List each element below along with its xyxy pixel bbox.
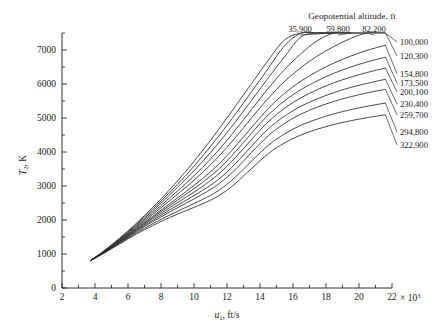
x-tick-label: 22	[387, 292, 397, 302]
y-axis-label: T2, K	[18, 155, 29, 175]
tick-labels-layer: 2468101214161820220100020003000400050006…	[37, 45, 397, 302]
y-tick-label: 3000	[37, 181, 56, 191]
x-tick-label: 2	[60, 292, 65, 302]
x-tick-label: 18	[321, 292, 331, 302]
leader-line	[385, 115, 397, 145]
curve-173500	[90, 57, 385, 261]
label-leader-lines-layer	[300, 33, 397, 145]
curve-label: 230,400	[400, 99, 428, 109]
curve-label: 35,900	[288, 24, 312, 34]
chart-svg: 2468101214161820220100020003000400050006…	[0, 0, 440, 331]
chart-figure: 2468101214161820220100020003000400050006…	[0, 0, 440, 331]
y-tick-label: 4000	[37, 147, 56, 157]
y-tick-label: 2000	[37, 215, 56, 225]
curve-230400	[90, 79, 385, 261]
x-tick-label: 20	[354, 292, 364, 302]
curve-label: 294,800	[400, 127, 428, 137]
x-tick-label: 12	[222, 292, 232, 302]
curves-layer	[90, 32, 385, 261]
svg-text:u1, ft/s: u1, ft/s	[215, 310, 240, 321]
curve-label: 59,800	[326, 24, 350, 34]
curve-322900	[90, 115, 385, 261]
y-tick-label: 6000	[37, 79, 56, 89]
x-tick-label: 14	[255, 292, 265, 302]
curve-35900	[90, 32, 334, 260]
x-tick-label: 6	[126, 292, 131, 302]
curve-label: 259,700	[400, 110, 428, 120]
curve-label: 100,000	[400, 37, 428, 47]
x-tick-label: 8	[159, 292, 164, 302]
leader-line	[385, 79, 397, 104]
x-tick-label: 10	[189, 292, 199, 302]
y-tick-label: 0	[51, 283, 56, 293]
x-tick-label: 4	[93, 292, 98, 302]
curve-labels-layer: 35,90059,80082,200100,000120,300154,8001…	[288, 24, 428, 150]
y-tick-label: 7000	[37, 45, 56, 55]
svg-text:× 103: × 103	[400, 292, 421, 304]
curve-label: 322,900	[400, 140, 428, 150]
x-tick-label: 16	[288, 292, 298, 302]
leader-line	[385, 89, 397, 115]
curve-label: 82,200	[362, 24, 386, 34]
svg-text:T2, K: T2, K	[18, 155, 29, 175]
y-tick-label: 1000	[37, 249, 56, 259]
x-axis-label: u1, ft/s	[215, 310, 240, 321]
x-axis-multiplier: × 103	[400, 292, 421, 304]
y-tick-label: 5000	[37, 113, 56, 123]
leader-line	[385, 103, 397, 132]
legend-title: Geopotential altitude, ft	[308, 11, 396, 21]
curve-label: 120,300	[400, 51, 428, 61]
leader-line	[385, 33, 397, 56]
leader-line	[385, 33, 397, 42]
curve-59800	[90, 32, 351, 261]
leader-line	[385, 68, 397, 92]
curve-label: 200,100	[400, 87, 428, 97]
